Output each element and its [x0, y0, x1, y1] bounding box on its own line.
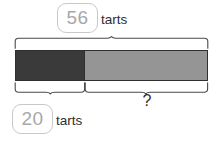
curly-brace-down-icon	[14, 82, 86, 95]
known-part-value-chip: 20	[12, 104, 53, 134]
known-part-unit-label: tarts	[56, 114, 82, 128]
bar-model-diagram: 56 tarts ? 20 tarts	[0, 0, 221, 141]
total-unit-label: tarts	[101, 13, 127, 27]
bar-segment-known-part	[16, 51, 85, 80]
curly-brace-up-icon	[14, 36, 209, 49]
bar-model-bar	[15, 50, 208, 81]
total-value-text: 56	[66, 7, 88, 29]
total-value-chip: 56	[57, 3, 98, 33]
unknown-value-marker: ?	[139, 93, 155, 109]
known-part-value-text: 20	[21, 108, 43, 130]
bar-segment-unknown-part	[85, 51, 207, 80]
